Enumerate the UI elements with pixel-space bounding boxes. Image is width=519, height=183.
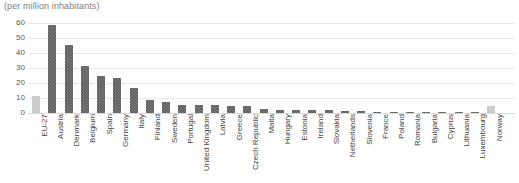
bar (471, 112, 479, 113)
x-tick-label-wrapper: Czech Republic (251, 114, 260, 180)
y-tick-label: 20 (16, 79, 25, 87)
x-tick-label: Luxembourg (478, 114, 487, 180)
chart-title: (per million inhabitants) (4, 1, 100, 11)
x-tick-label: Ireland (316, 114, 325, 180)
y-tick-label: 40 (16, 49, 25, 57)
y-axis: 0102030405060 (0, 18, 25, 114)
x-tick-label-wrapper: Romania (413, 114, 422, 180)
bar (65, 45, 73, 113)
bar (373, 112, 381, 114)
bar (32, 96, 40, 113)
x-tick-label-wrapper: United Kingdom (202, 114, 211, 180)
x-tick-label: Spain (105, 114, 114, 180)
bar (195, 105, 203, 113)
bar (341, 111, 349, 113)
x-tick-label: Belgium (88, 114, 97, 180)
x-tick-label: Cyprus (446, 114, 455, 180)
bar (48, 25, 56, 113)
y-tick-label: 10 (16, 94, 25, 102)
bar (390, 112, 398, 113)
x-tick-label: France (381, 114, 390, 180)
x-tick-label: Sweden (170, 114, 179, 180)
x-tick-label-wrapper: Greece (235, 114, 244, 180)
x-tick-label-wrapper: Malta (267, 114, 276, 180)
x-tick-label-wrapper: Poland (397, 114, 406, 180)
x-tick-label-wrapper: France (381, 114, 390, 180)
x-tick-label-wrapper: Austria (56, 114, 65, 180)
x-tick-label-wrapper: Slovakia (332, 114, 341, 180)
x-tick-label: Portugal (186, 114, 195, 180)
bars-layer (28, 18, 515, 113)
x-tick-label-wrapper: Estonia (300, 114, 309, 180)
x-tick-label-wrapper: Cyprus (446, 114, 455, 180)
bar (406, 112, 414, 113)
bar (260, 109, 268, 113)
bar (308, 110, 316, 113)
bar (487, 106, 495, 114)
bar (211, 105, 219, 113)
x-tick-label: Denmark (72, 114, 81, 180)
x-tick-label-wrapper: Luxembourg (478, 114, 487, 180)
x-tick-label-wrapper: Finland (153, 114, 162, 180)
x-tick-label: Estonia (300, 114, 309, 180)
bar (325, 110, 333, 113)
bar (438, 112, 446, 113)
bar (130, 88, 138, 114)
x-tick-label-wrapper: Latvia (218, 114, 227, 180)
bar (178, 105, 186, 113)
x-tick-label: Germany (121, 114, 130, 180)
x-tick-label: Lithuania (462, 114, 471, 180)
bar (357, 111, 365, 113)
x-tick-label-wrapper: Lithuania (462, 114, 471, 180)
y-tick-label: 30 (16, 64, 25, 72)
bar (146, 100, 154, 114)
x-tick-label: Norway (495, 114, 504, 180)
x-tick-label: Slovenia (365, 114, 374, 180)
x-tick-label-wrapper: Sweden (170, 114, 179, 180)
x-tick-label: Finland (153, 114, 162, 180)
x-tick-label-wrapper: Spain (105, 114, 114, 180)
x-tick-label: Malta (267, 114, 276, 180)
bar-chart: (per million inhabitants) 0102030405060 … (0, 0, 519, 183)
x-tick-label-wrapper: Ireland (316, 114, 325, 180)
x-tick-label-wrapper: Bulgaria (430, 114, 439, 180)
x-tick-label-wrapper: Hungary (283, 114, 292, 180)
bar (422, 112, 430, 113)
bar (81, 66, 89, 113)
bar (162, 102, 170, 113)
x-tick-label-wrapper: Portugal (186, 114, 195, 180)
y-tick-label: 50 (16, 34, 25, 42)
x-tick-label-wrapper: Norway (495, 114, 504, 180)
x-tick-label: Slovakia (332, 114, 341, 180)
x-tick-label-wrapper: Netherlands (348, 114, 357, 180)
x-tick-label-wrapper: Slovenia (365, 114, 374, 180)
x-tick-label-wrapper: Denmark (72, 114, 81, 180)
bar (113, 78, 121, 113)
bar (227, 106, 235, 114)
x-tick-label: Netherlands (348, 114, 357, 180)
x-axis-labels: EU-27AustriaDenmarkBelgiumSpainGermanyIt… (28, 116, 515, 183)
x-tick-label: Italy (137, 114, 146, 180)
x-tick-label: Poland (397, 114, 406, 180)
x-tick-label: Bulgaria (430, 114, 439, 180)
bar (292, 110, 300, 113)
bar (97, 76, 105, 113)
bar (455, 112, 463, 113)
x-tick-label-wrapper: Belgium (88, 114, 97, 180)
x-tick-label: EU-27 (40, 114, 49, 180)
x-tick-label: Hungary (283, 114, 292, 180)
x-tick-label-wrapper: Italy (137, 114, 146, 180)
x-tick-label: Austria (56, 114, 65, 180)
x-tick-label: Greece (235, 114, 244, 180)
y-tick-label: 60 (16, 19, 25, 27)
y-tick-label: 0 (21, 109, 25, 117)
x-tick-label-wrapper: Germany (121, 114, 130, 180)
x-tick-label: Czech Republic (251, 114, 260, 180)
x-tick-label-wrapper: EU-27 (40, 114, 49, 180)
x-tick-label: United Kingdom (202, 114, 211, 180)
bar (243, 106, 251, 113)
bar (276, 110, 284, 113)
x-tick-label: Latvia (218, 114, 227, 180)
x-tick-label: Romania (413, 114, 422, 180)
